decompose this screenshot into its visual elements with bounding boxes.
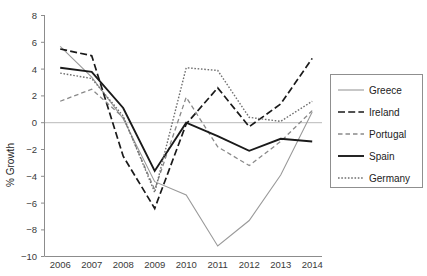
- legend-label-germany[interactable]: Germany: [369, 173, 410, 184]
- y-tick-label: 8: [32, 10, 37, 21]
- y-tick-label: −4: [26, 171, 37, 182]
- y-tick-label: −2: [26, 144, 37, 155]
- series-line-germany: [60, 68, 312, 193]
- x-tick-label: 2012: [239, 259, 260, 270]
- y-tick-label: −6: [26, 198, 37, 209]
- x-tick-label: 2011: [207, 259, 227, 270]
- series-layer: [60, 46, 312, 246]
- x-tick-label: 2007: [81, 259, 102, 270]
- x-tick-label: 2008: [113, 259, 134, 270]
- y-tick-labels: 8 6 4 2 0 −2 −4 −6 −8 −10: [21, 10, 37, 262]
- y-axis-title: % Growth: [5, 143, 16, 187]
- legend-label-spain[interactable]: Spain: [369, 151, 395, 162]
- x-tick-label: 2009: [144, 259, 165, 270]
- y-tick-label: 4: [32, 64, 37, 75]
- y-tick-label: 2: [32, 90, 37, 101]
- x-tick-label: 2014: [302, 259, 323, 270]
- legend-label-ireland[interactable]: Ireland: [369, 107, 400, 118]
- series-line-portugal: [60, 89, 312, 190]
- growth-line-chart: 8 6 4 2 0 −2 −4 −6 −8 −10 % Growth 2006 …: [0, 0, 427, 276]
- y-tick-label: 6: [32, 37, 37, 48]
- legend-label-portugal[interactable]: Portugal: [369, 129, 406, 140]
- x-tick-labels: 2006 2007 2008 2009 2010 2011 2012 2013 …: [50, 259, 323, 270]
- series-line-spain: [60, 68, 312, 171]
- x-tick-label: 2013: [270, 259, 291, 270]
- chart-canvas: 8 6 4 2 0 −2 −4 −6 −8 −10 % Growth 2006 …: [0, 0, 427, 276]
- y-tick-label: −10: [21, 251, 37, 262]
- legend-label-greece[interactable]: Greece: [369, 85, 402, 96]
- x-tick-label: 2010: [176, 259, 197, 270]
- x-tick-label: 2006: [50, 259, 71, 270]
- y-tick-marks: [41, 16, 45, 257]
- y-tick-label: −8: [26, 224, 37, 235]
- y-tick-label: 0: [32, 117, 37, 128]
